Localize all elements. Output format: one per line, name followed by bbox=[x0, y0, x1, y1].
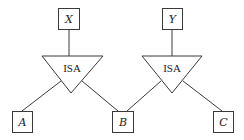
isa-triangle-2: ISA bbox=[142, 56, 202, 93]
isa-label-1: ISA bbox=[63, 62, 81, 74]
entity-x-label: X bbox=[64, 13, 74, 26]
entity-y: Y bbox=[163, 9, 183, 30]
edge-isa2-b bbox=[127, 81, 161, 111]
entity-c-label: C bbox=[219, 116, 228, 129]
isa-triangle-1: ISA bbox=[42, 56, 103, 93]
edge-isa1-a bbox=[22, 81, 61, 111]
isa-label-2: ISA bbox=[163, 62, 181, 74]
entity-a-label: A bbox=[18, 116, 27, 129]
entity-b: B bbox=[113, 112, 134, 133]
edge-isa2-c bbox=[183, 81, 222, 111]
entity-x: X bbox=[59, 9, 80, 30]
entity-c: C bbox=[214, 112, 234, 133]
edge-isa1-b bbox=[82, 81, 118, 111]
entity-b-label: B bbox=[118, 116, 127, 129]
entity-a: A bbox=[13, 112, 33, 133]
isa-diagram: ISA ISA X Y A B C bbox=[0, 0, 244, 140]
